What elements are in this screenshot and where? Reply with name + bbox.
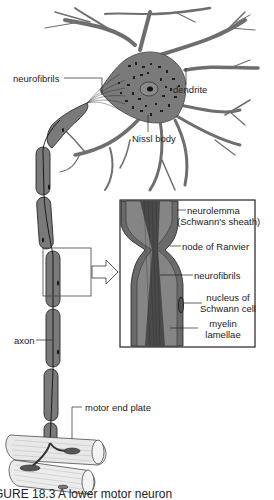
- label-node-of-ranvier: node of Ranvier: [182, 241, 249, 252]
- label-nucleus-schwann: nucleus of Schwann cell: [200, 292, 256, 314]
- nucleolus: [147, 87, 153, 92]
- figure-caption: GURE 18.3 A lower motor neuron: [0, 487, 172, 500]
- label-axon: axon: [14, 335, 35, 346]
- label-motor-end-plate: motor end plate: [85, 402, 151, 413]
- label-myelin-line2: lamellae: [198, 329, 248, 340]
- label-myelin-lamellae: myelin lamellae: [198, 318, 248, 340]
- label-neurofibrils: neurofibrils: [13, 73, 59, 84]
- label-neurolemma: neurolemma: [187, 205, 240, 216]
- label-neurolemma-line1: neurolemma: [187, 205, 240, 216]
- muscle-fibers: [6, 435, 106, 494]
- label-schwanns-sheath: (Schwann's sheath): [177, 216, 260, 227]
- label-myelin-line1: myelin: [198, 318, 248, 329]
- label-inset-neurofibrils: neurofibrils: [194, 270, 240, 281]
- label-nucleus-line1: nucleus of: [200, 292, 256, 303]
- label-nucleus-line2: Schwann cell: [200, 303, 256, 314]
- label-nissl-body: Nissl body: [132, 133, 176, 144]
- magnify-arrow: [92, 260, 118, 284]
- label-dendrite: dendrite: [173, 84, 207, 95]
